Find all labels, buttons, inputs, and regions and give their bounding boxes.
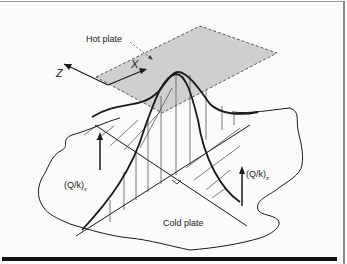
bottom-border (2, 257, 337, 261)
x-axis-label: X (131, 58, 138, 70)
hot-plate-label: Hot plate (86, 34, 122, 44)
flux-x-label: (Q/k)x (64, 180, 87, 192)
flux-z-arrow (239, 166, 245, 174)
hot-plate (96, 26, 277, 113)
cold-plate-label: Cold plate (163, 218, 204, 228)
cold-plate-line-b (95, 125, 247, 226)
figure-frame: Hot plate Cold plate X Z (Q/k)x (Q/k)z (0, 0, 347, 264)
z-axis-label: Z (56, 67, 63, 79)
flux-z-label: (Q/k)z (246, 169, 269, 181)
flux-x-arrow (97, 132, 103, 140)
